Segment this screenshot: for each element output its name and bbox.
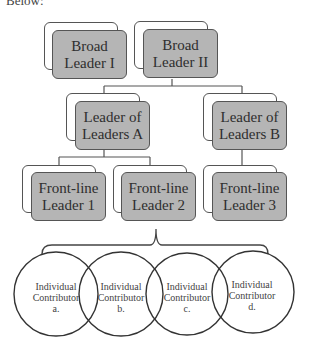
box-label: Front-line <box>129 180 189 197</box>
broad-leader-2-box: BroadLeader II <box>143 29 218 78</box>
box-label: Leaders A <box>82 126 143 143</box>
front-line-leader-1-box: Front-lineLeader 1 <box>31 172 106 221</box>
ic-label: Individual <box>210 279 294 290</box>
leader-of-leaders-b-box: Leader ofLeaders B <box>212 101 287 150</box>
box-label: Front-line <box>220 180 280 197</box>
box-label: Leaders B <box>219 126 280 143</box>
ic-label: d. <box>210 301 294 312</box>
leader-of-leaders-a-box: Leader ofLeaders A <box>75 101 150 150</box>
front-line-leader-2-box: Front-lineLeader 2 <box>121 172 196 221</box>
box-label: Leader of <box>219 109 280 126</box>
front-line-leader-3-box: Front-lineLeader 3 <box>212 172 287 221</box>
box-label: Leader II <box>153 54 208 71</box>
individual-contributor-d: Individual Contributor d. <box>210 279 294 312</box>
box-label: Broad <box>64 38 114 55</box>
box-label: Leader 3 <box>220 197 280 214</box>
box-label: Leader 2 <box>129 197 189 214</box>
box-label: Broad <box>153 37 208 54</box>
box-label: Leader 1 <box>39 197 99 214</box>
broad-leader-1-box: BroadLeader I <box>52 30 127 79</box>
box-label: Leader of <box>82 109 143 126</box>
box-label: Leader I <box>64 55 114 72</box>
box-label: Front-line <box>39 180 99 197</box>
grouping-brace <box>42 229 268 254</box>
ic-label: Contributor <box>210 290 294 301</box>
